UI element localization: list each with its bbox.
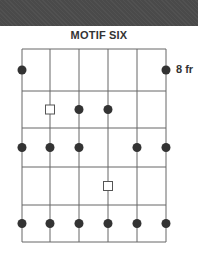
finger-dot-icon bbox=[75, 143, 84, 152]
finger-dot-icon bbox=[18, 219, 27, 228]
finger-dot-icon bbox=[104, 105, 113, 114]
fretboard-diagram bbox=[0, 0, 198, 264]
finger-dot-icon bbox=[162, 66, 171, 75]
finger-dot-icon bbox=[133, 219, 142, 228]
finger-dot-icon bbox=[18, 66, 27, 75]
finger-dot-icon bbox=[162, 143, 171, 152]
finger-dot-icon bbox=[162, 219, 171, 228]
root-square-icon bbox=[46, 105, 55, 114]
root-square-icon bbox=[104, 182, 113, 191]
fret-position-label: 8 fr bbox=[176, 63, 193, 75]
finger-dot-icon bbox=[75, 105, 84, 114]
finger-dot-icon bbox=[46, 143, 55, 152]
finger-dot-icon bbox=[46, 219, 55, 228]
finger-dot-icon bbox=[104, 219, 113, 228]
finger-dot-icon bbox=[75, 219, 84, 228]
finger-dot-icon bbox=[18, 143, 27, 152]
finger-dot-icon bbox=[133, 143, 142, 152]
